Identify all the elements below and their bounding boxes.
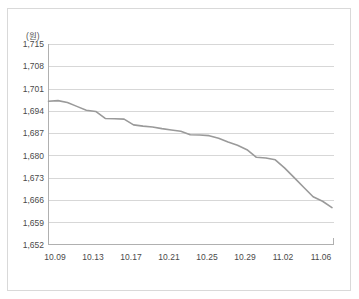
- y-axis-tick-label: 1,715: [4, 40, 44, 49]
- gridline-group: [49, 45, 335, 223]
- x-axis-tick-label: 10.25: [187, 252, 227, 262]
- line-chart: 1,715 1,708 1,701 1,694 1,687 1,680 1,67…: [0, 0, 359, 299]
- x-axis-tick-label: 11.02: [263, 252, 303, 262]
- x-axis-tick-label: 10.21: [149, 252, 189, 262]
- x-axis-tick-label: 10.29: [225, 252, 265, 262]
- y-axis-tick-label: 1,687: [4, 129, 44, 138]
- x-axis-tick-label: 11.06: [301, 252, 341, 262]
- y-axis-tick-label: 1,680: [4, 152, 44, 161]
- y-axis-tick-label: 1,652: [4, 241, 44, 250]
- x-axis-tick-label: 10.13: [73, 252, 113, 262]
- x-axis-tick-label: 10.17: [111, 252, 151, 262]
- y-axis-tick-label: 1,666: [4, 196, 44, 205]
- y-axis-tick-label: 1,694: [4, 107, 44, 116]
- series-line-exchange-rate: [49, 101, 333, 208]
- y-axis-tick-label: 1,708: [4, 62, 44, 71]
- x-axis-tick-label: 10.09: [35, 252, 75, 262]
- y-axis-tick-label: 1,673: [4, 174, 44, 183]
- y-axis-tick-label: 1,659: [4, 219, 44, 228]
- y-axis-tick-label: 1,701: [4, 85, 44, 94]
